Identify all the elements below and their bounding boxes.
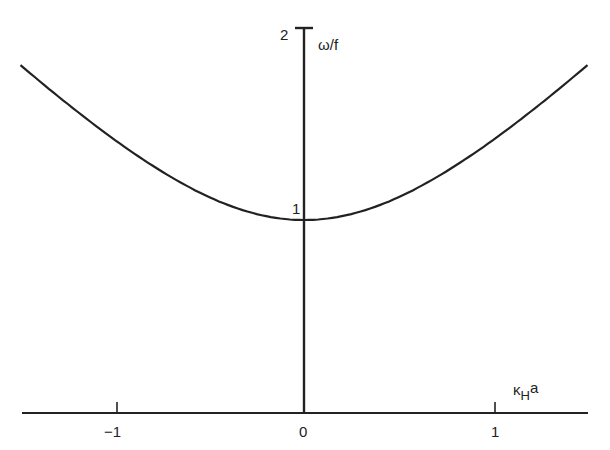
x-axis-label-a: a	[530, 379, 539, 396]
y-tick-label-2: 2	[280, 26, 288, 43]
chart: 2 1 ω/f −1 0 1 κHa	[0, 0, 610, 450]
x-axis-label: κHa	[513, 379, 539, 403]
y-tick-label-1: 1	[292, 200, 300, 217]
y-axis-label: ω/f	[318, 36, 339, 53]
x-tick-label-1: 1	[491, 423, 499, 440]
x-tick-label-0: 0	[299, 423, 307, 440]
x-tick-label-neg1: −1	[104, 423, 121, 440]
x-axis-label-sub: H	[521, 388, 530, 403]
